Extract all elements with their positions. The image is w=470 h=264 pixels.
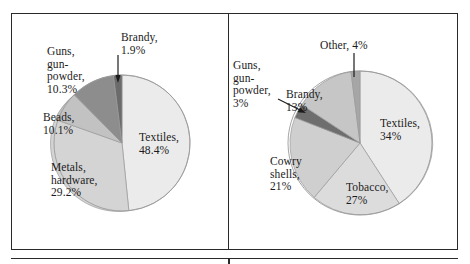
- label-textiles: Textiles, 34%: [380, 117, 420, 142]
- bottom-divider-rule: [11, 258, 458, 259]
- label-tobacco: Tobacco, 27%: [346, 181, 388, 206]
- label-brandy: Brandy, 13%: [286, 88, 323, 113]
- label-guns-gunpowder: Guns, gun- powder, 3%: [233, 59, 271, 109]
- label-cowry-shells: Cowry shells, 21%: [270, 155, 302, 193]
- label-textiles: Textiles, 48.4%: [139, 131, 179, 156]
- right-pie-chart: Textiles, 34% Tobacco, 27% Cowry shells,…: [228, 13, 458, 250]
- label-other: Other, 4%: [320, 39, 368, 52]
- label-metals-hardware: Metals, hardware, 29.2%: [51, 161, 98, 199]
- label-guns-gunpowder: Guns, gun- powder, 10.3%: [47, 45, 85, 95]
- label-brandy: Brandy, 1.9%: [121, 31, 158, 56]
- bottom-center-tick: [228, 258, 230, 264]
- two-pie-chart-figure: Textiles, 48.4% Metals, hardware, 29.2% …: [0, 0, 470, 264]
- left-pie-chart: Textiles, 48.4% Metals, hardware, 29.2% …: [11, 13, 229, 250]
- label-beads: Beads, 10.1%: [43, 111, 75, 136]
